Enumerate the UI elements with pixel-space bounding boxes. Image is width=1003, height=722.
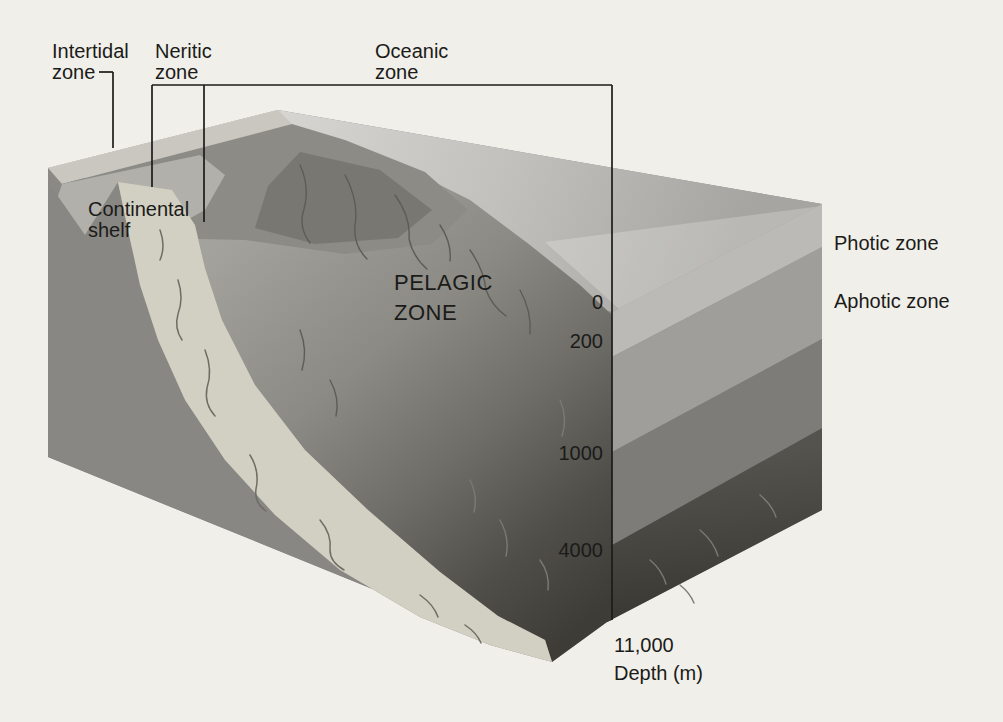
depth-tick-4000: 4000 (559, 539, 604, 561)
ocean-zones-diagram: Intertidalzone Neriticzone Oceaniczone C… (0, 0, 1003, 722)
label-photic-zone: Photic zone (834, 232, 939, 254)
label-aphotic-zone: Aphotic zone (834, 290, 950, 312)
depth-tick-1000: 1000 (559, 442, 604, 464)
depth-axis-label: Depth (m) (614, 662, 703, 684)
textbook-figure-ocean-zones: Intertidalzone Neriticzone Oceaniczone C… (0, 0, 1003, 722)
depth-tick-11000: 11,000 (614, 634, 674, 656)
depth-tick-0: 0 (592, 291, 603, 313)
depth-tick-200: 200 (570, 330, 603, 352)
